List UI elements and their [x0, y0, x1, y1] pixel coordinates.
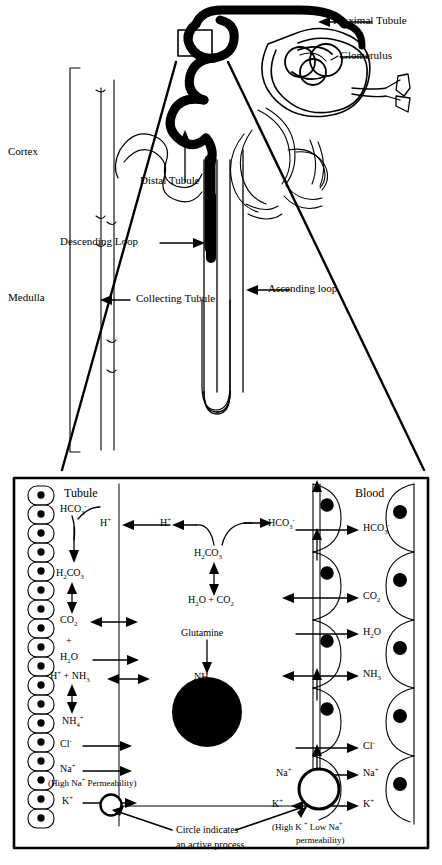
- endothelial-nucleus: [394, 778, 407, 791]
- glomerular-capillary-tuft: [285, 44, 342, 85]
- tubule-cell: [28, 695, 54, 714]
- nh4-equilibrium-arrow: [67, 684, 77, 714]
- endothelial-nucleus: [321, 635, 333, 647]
- species-ammonia-cell: NH3: [194, 672, 212, 682]
- region-label-medulla: Medulla: [8, 292, 45, 303]
- species-sodium-blood-inner: Na+: [276, 768, 292, 778]
- species-sodium-tubule: Na+: [60, 764, 76, 774]
- label-descending-loop: Descending Loop: [60, 236, 138, 247]
- capillary-endothelium-outer: [386, 484, 414, 824]
- species-carbonic-acid-tubule: H2CO3: [56, 568, 84, 578]
- active-transport-circle-blood: [299, 769, 339, 809]
- endothelial-nucleus: [321, 703, 333, 715]
- compartment-label-blood: Blood: [355, 487, 384, 499]
- tubule-cell: [28, 600, 54, 619]
- species-hydrogen-ion-cell: H+: [160, 518, 171, 528]
- species-bicarbonate-cell: HCO3-: [268, 518, 295, 528]
- tubule-cell: [28, 638, 54, 657]
- species-carbonic-acid-cell: H2CO3: [194, 548, 222, 558]
- note-high-k-low-na-line1: (High K + Low Na+: [272, 823, 342, 832]
- label-distal-tubule: Distal Tubule: [140, 175, 200, 186]
- species-chloride-tubule: Cl-: [60, 739, 72, 749]
- legend-line2: an active process: [176, 840, 244, 850]
- species-potassium-blood: K+: [363, 799, 374, 809]
- label-ascending-loop: Ascending loop: [268, 283, 337, 294]
- endothelial-nucleus: [321, 499, 333, 511]
- loop-outer-outline: [202, 300, 230, 410]
- label-glomerulus: Glomerulus: [340, 50, 392, 61]
- glutamine-arrow: [202, 640, 212, 674]
- figure-linework: [0, 0, 442, 865]
- tubule-cell: [28, 714, 54, 733]
- h2o-arrow-tubule: [93, 655, 139, 665]
- species-hydrogen-ion-tubule: H+: [100, 518, 111, 528]
- tubule-cell: [28, 619, 54, 638]
- reaction-arrows-center-equilibrium: [209, 562, 219, 596]
- nh3-diffusion-arrow-tubule: [107, 674, 150, 684]
- label-proximal-tubule: Proximal Tubule: [333, 15, 407, 26]
- cell-nucleus: [172, 677, 242, 747]
- endothelial-nucleus: [394, 506, 407, 519]
- legend-line1: Circle indicates: [176, 825, 238, 835]
- tubule-cell: [28, 790, 54, 809]
- figure-canvas: Cortex Medulla Proximal Tubule Glomerulu…: [0, 0, 442, 865]
- endothelial-cell: [313, 552, 341, 620]
- note-high-na-permeability: (High Na+ Permeability): [48, 779, 136, 788]
- tubule-cell: [28, 486, 54, 505]
- tubule-cell-column: [28, 486, 54, 828]
- label-collecting-tubule: Collecting Tubule: [136, 293, 215, 304]
- tubule-cell: [28, 543, 54, 562]
- tubule-cell: [28, 809, 54, 828]
- tubule-cell: [28, 733, 54, 752]
- peritubular-capillary-network: [231, 108, 328, 219]
- efferent-arteriole: [352, 74, 410, 112]
- collecting-tubule-shape: [96, 80, 116, 450]
- species-glutamine-cell: Glutamine: [181, 628, 223, 638]
- cl-arrow-tubule: [83, 741, 132, 751]
- species-hydrogen-plus-ammonia-tubule: H+ + NH3: [50, 671, 90, 681]
- note-high-k-low-na-line2: permeability): [296, 836, 344, 845]
- co2-diffusion-arrow-tubule: [90, 617, 138, 627]
- reaction-arrows-left-equilibrium: [67, 582, 77, 614]
- tubule-cell: [28, 752, 54, 771]
- tubule-cell: [28, 505, 54, 524]
- region-bracket: [70, 68, 80, 452]
- endothelial-nucleus: [394, 574, 407, 587]
- tubule-cell: [28, 562, 54, 581]
- endothelial-nucleus: [394, 710, 407, 723]
- tubule-cell: [28, 581, 54, 600]
- endothelial-nucleus: [321, 567, 333, 579]
- species-water-tubule: H2O: [60, 652, 78, 662]
- tubule-cell: [28, 524, 54, 543]
- species-ammonium-tubule: NH4+: [62, 716, 84, 726]
- na-arrow-tubule: [83, 766, 132, 776]
- species-potassium-blood-inner: K+: [272, 799, 283, 809]
- species-plus-sign-tubule: +: [66, 636, 72, 646]
- compartment-label-tubule: Tubule: [64, 487, 98, 499]
- species-water-plus-co2-cell: H2O + CO2: [188, 595, 234, 605]
- species-bicarbonate-blood: HCO3-: [363, 523, 390, 533]
- endothelial-nucleus: [394, 642, 407, 655]
- species-water-blood: H2O: [363, 627, 381, 637]
- region-label-cortex: Cortex: [8, 146, 38, 157]
- species-carbon-dioxide-tubule: CO2: [60, 615, 77, 625]
- species-chloride-blood: Cl-: [363, 741, 375, 751]
- species-potassium-tubule: K+: [62, 796, 73, 806]
- species-carbon-dioxide-blood: CO2: [363, 591, 380, 601]
- species-sodium-blood: Na+: [363, 768, 379, 778]
- transport-panel-frame: [14, 478, 428, 848]
- species-ammonia-blood: NH3: [363, 669, 381, 679]
- species-bicarbonate-tubule: HCO3-: [60, 504, 87, 514]
